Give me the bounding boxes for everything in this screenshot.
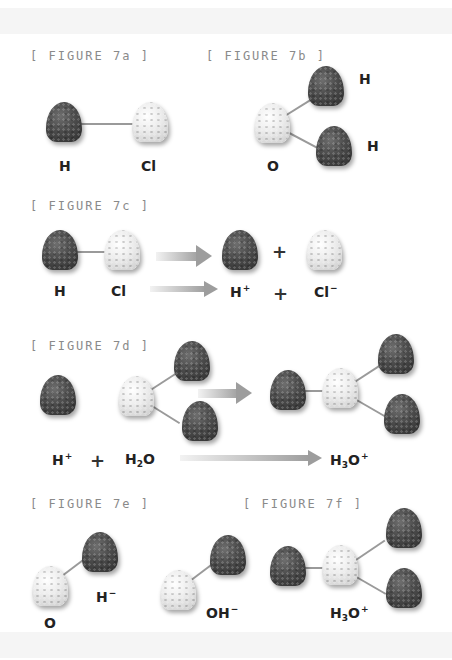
label-cl: Cl	[141, 158, 156, 174]
hydrogen-atom	[270, 546, 306, 586]
chlorine-atom	[104, 230, 140, 270]
hydrogen-atom	[378, 334, 414, 374]
hydrogen-atom	[384, 394, 420, 434]
label-cl: Cl	[111, 283, 126, 299]
hydrogen-ion-atom	[222, 230, 258, 270]
hydrogen-atom	[386, 568, 422, 608]
oxygen-atom	[32, 566, 68, 606]
figure-7f-title: [ FIGURE 7f ]	[243, 497, 363, 511]
label-h-ion: H−	[96, 588, 116, 605]
reaction-arrow	[150, 284, 218, 294]
hydrogen-atom	[82, 532, 118, 572]
oxygen-atom	[254, 103, 290, 143]
label-hydronium: H3O+	[330, 604, 368, 623]
plus-sign: +	[90, 450, 105, 471]
hydrogen-atom	[270, 370, 306, 410]
figure-7d-title: [ FIGURE 7d ]	[30, 339, 150, 353]
label-o: O	[44, 615, 56, 631]
hydrogen-atom	[174, 341, 210, 381]
bond-h-cl	[80, 123, 135, 125]
figure-7e-title: [ FIGURE 7e ]	[30, 497, 150, 511]
oxygen-atom	[322, 368, 358, 408]
oxygen-atom	[322, 545, 358, 585]
reaction-arrow	[180, 453, 322, 463]
chlorine-atom	[132, 102, 168, 142]
label-h2: H	[367, 138, 379, 154]
hydrogen-atom	[210, 535, 246, 575]
hydrogen-atom	[182, 401, 218, 441]
oxygen-atom	[160, 570, 196, 610]
top-band	[0, 8, 452, 34]
hydrogen-atom	[42, 230, 78, 270]
label-water: H2O	[125, 451, 155, 469]
hydrogen-atom	[386, 508, 422, 548]
chloride-ion-atom	[306, 230, 342, 270]
label-hydroxide: OH−	[206, 604, 238, 621]
label-o: O	[267, 158, 279, 174]
bottom-band	[0, 632, 452, 658]
label-h: H	[54, 283, 66, 299]
oxygen-atom	[118, 376, 154, 416]
label-hydronium: H3O+	[330, 451, 368, 470]
figure-7c-title: [ FIGURE 7c ]	[30, 199, 150, 213]
figure-7b-title: [ FIGURE 7b ]	[206, 49, 326, 63]
label-h-ion: H+	[230, 283, 250, 300]
label-h: H	[59, 158, 71, 174]
label-h1: H	[359, 71, 371, 87]
hydrogen-atom	[316, 126, 352, 166]
plus-sign: +	[273, 283, 288, 304]
plus-sign: +	[272, 241, 287, 262]
label-h-ion: H+	[52, 451, 72, 468]
figure-7a-title: [ FIGURE 7a ]	[30, 49, 150, 63]
reaction-arrow	[156, 249, 212, 263]
hydrogen-atom	[46, 102, 82, 142]
label-cl-ion: Cl−	[314, 283, 338, 300]
hydrogen-ion-atom	[40, 375, 76, 415]
hydrogen-atom	[308, 66, 344, 106]
reaction-arrow	[198, 386, 252, 400]
